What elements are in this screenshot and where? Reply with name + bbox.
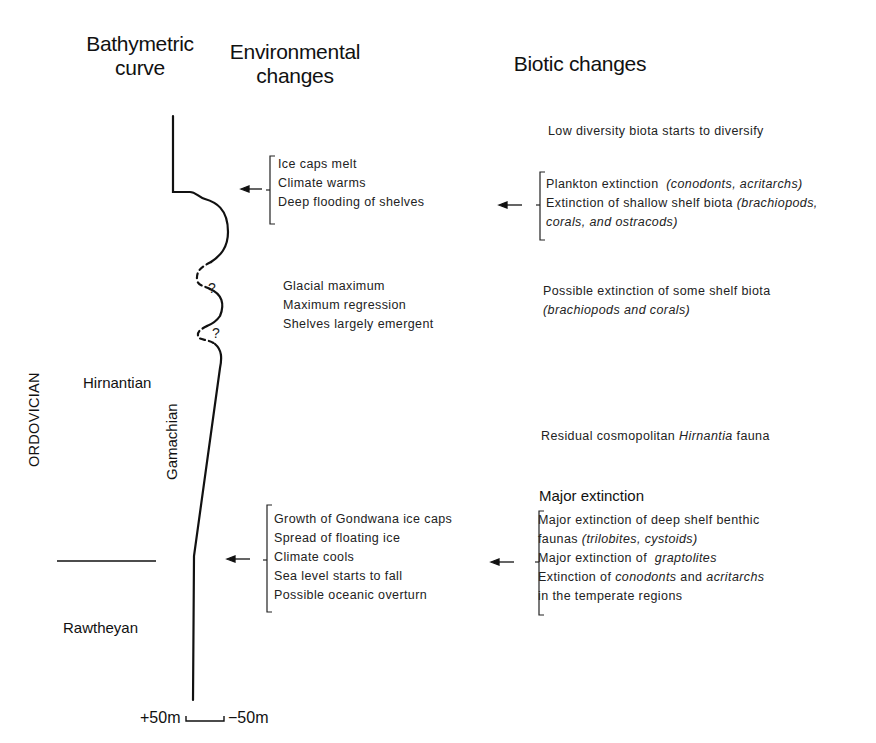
bathymetric-curve bbox=[173, 116, 228, 700]
arrow-to-curve-upper bbox=[241, 186, 262, 192]
biotic-item: corals, and ostracods) bbox=[546, 213, 818, 232]
env-item: Climate cools bbox=[274, 548, 452, 567]
biotic-item: Extinction of conodonts and acritarchs bbox=[538, 568, 764, 587]
env-item: Climate warms bbox=[278, 174, 425, 193]
biotic-diversify: Low diversity biota starts to diversify bbox=[548, 122, 764, 141]
biotic-upper-group: Plankton extinction (conodonts, acritarc… bbox=[546, 175, 818, 232]
arrow-to-env-lower bbox=[491, 559, 514, 565]
env-item: Growth of Gondwana ice caps bbox=[274, 510, 452, 529]
major-extinction-heading: Major extinction bbox=[539, 487, 644, 504]
env-bracket-upper bbox=[266, 156, 275, 224]
scale-bar bbox=[186, 716, 224, 721]
system-label: ORDOVICIAN bbox=[26, 372, 42, 467]
uncertain-marker-2: ? bbox=[212, 325, 220, 341]
stage-lower-label: Rawtheyan bbox=[63, 619, 138, 636]
env-glacial-group: Glacial maximum Maximum regression Shelv… bbox=[283, 277, 434, 334]
env-cooling-group: Growth of Gondwana ice caps Spread of fl… bbox=[274, 510, 452, 605]
biotic-residual: Residual cosmopolitan Hirnantia fauna bbox=[541, 427, 770, 446]
scale-right-label: −50m bbox=[228, 709, 268, 727]
biotic-item: Plankton extinction (conodonts, acritarc… bbox=[546, 175, 818, 194]
substage-label: Gamachian bbox=[163, 403, 180, 480]
biotic-possible-group: Possible extinction of some shelf biota … bbox=[543, 282, 771, 320]
env-item: Sea level starts to fall bbox=[274, 567, 452, 586]
biotic-item: in the temperate regions bbox=[538, 587, 764, 606]
env-item: Shelves largely emergent bbox=[283, 315, 434, 334]
biotic-item: Major extinction of graptolites bbox=[538, 549, 764, 568]
uncertain-marker-1: ? bbox=[208, 280, 216, 296]
env-item: Possible oceanic overturn bbox=[274, 586, 452, 605]
env-item: Maximum regression bbox=[283, 296, 434, 315]
biotic-lower-group: Major extinction of deep shelf benthic f… bbox=[538, 511, 764, 606]
stage-upper-label: Hirnantian bbox=[83, 374, 151, 391]
biotic-item: Extinction of shallow shelf biota (brach… bbox=[546, 194, 818, 213]
biotic-item: faunas (trilobites, cystoids) bbox=[538, 530, 764, 549]
biotic-item: Possible extinction of some shelf biota bbox=[543, 282, 771, 301]
biotic-item: Major extinction of deep shelf benthic bbox=[538, 511, 764, 530]
env-bracket-lower bbox=[263, 505, 272, 612]
arrow-to-curve-lower bbox=[227, 556, 250, 562]
env-item: Deep flooding of shelves bbox=[278, 193, 425, 212]
env-warming-group: Ice caps melt Climate warms Deep floodin… bbox=[278, 155, 425, 212]
scale-left-label: +50m bbox=[140, 709, 180, 727]
biotic-item: (brachiopods and corals) bbox=[543, 301, 771, 320]
arrow-to-env-upper bbox=[499, 202, 522, 208]
env-item: Ice caps melt bbox=[278, 155, 425, 174]
biotic-bracket-upper bbox=[536, 172, 545, 240]
env-item: Spread of floating ice bbox=[274, 529, 452, 548]
env-item: Glacial maximum bbox=[283, 277, 434, 296]
